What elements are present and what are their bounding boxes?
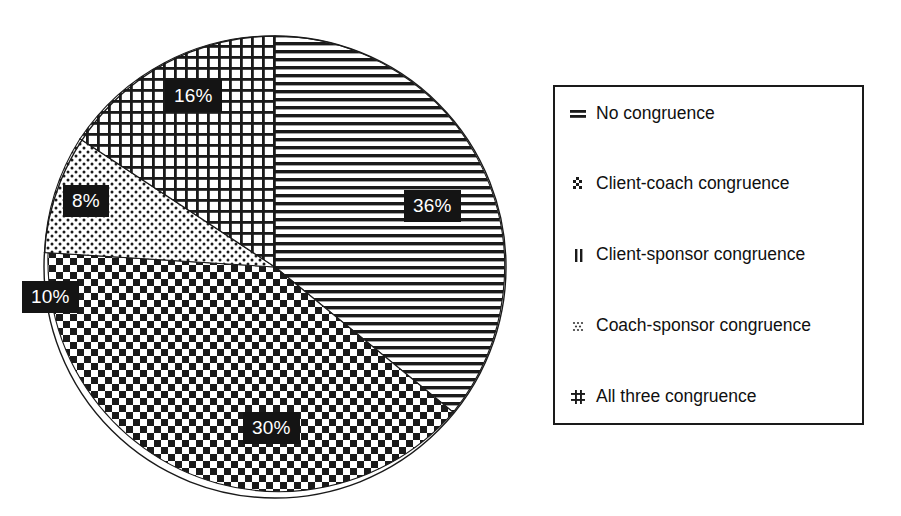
pie-chart-figure: 36% 30% 10% 8% 16% No congruence: [0, 0, 901, 516]
pie-label-all-three: 16%: [165, 80, 222, 112]
grid-swatch-icon: [569, 388, 587, 406]
dots-swatch-icon: [569, 317, 587, 335]
legend-item-no-congruence[interactable]: No congruence: [569, 101, 715, 127]
legend-item-coach-sponsor[interactable]: Coach-sponsor congruence: [569, 313, 811, 339]
pie-label-no-congruence: 36%: [404, 190, 461, 222]
legend-label: No congruence: [596, 105, 715, 123]
pie-label-client-sponsor: 10%: [22, 281, 79, 313]
pie-label-client-coach: 30%: [243, 412, 300, 444]
legend-label: Client-sponsor congruence: [596, 246, 805, 264]
pie-label-coach-sponsor: 8%: [63, 185, 109, 217]
legend-label: All three congruence: [596, 388, 757, 406]
vertical-lines-swatch-icon: [569, 246, 587, 264]
checkerboard-swatch-icon: [569, 175, 587, 193]
legend: No congruence Client-coach congruence: [553, 85, 864, 425]
legend-item-client-coach[interactable]: Client-coach congruence: [569, 171, 790, 197]
legend-item-client-sponsor[interactable]: Client-sponsor congruence: [569, 242, 805, 268]
legend-item-all-three[interactable]: All three congruence: [569, 384, 757, 410]
legend-label: Client-coach congruence: [596, 175, 790, 193]
horizontal-lines-swatch-icon: [569, 105, 587, 123]
legend-label: Coach-sponsor congruence: [596, 317, 811, 335]
